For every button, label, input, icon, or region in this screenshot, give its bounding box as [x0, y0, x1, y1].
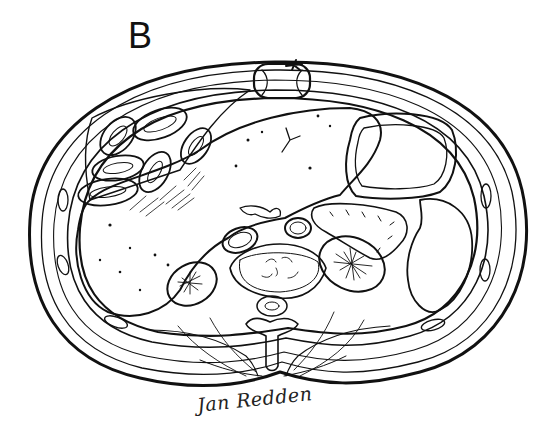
bowel-loops — [76, 89, 250, 216]
aorta — [285, 218, 311, 238]
left-kidney — [310, 226, 394, 302]
vertebra — [230, 244, 326, 371]
abdominal-cross-section-illustration — [0, 0, 548, 444]
suture-ligature — [254, 60, 310, 98]
pancreas — [312, 204, 407, 260]
spleen — [407, 199, 472, 312]
right-kidney — [159, 254, 224, 315]
stomach — [346, 114, 456, 199]
